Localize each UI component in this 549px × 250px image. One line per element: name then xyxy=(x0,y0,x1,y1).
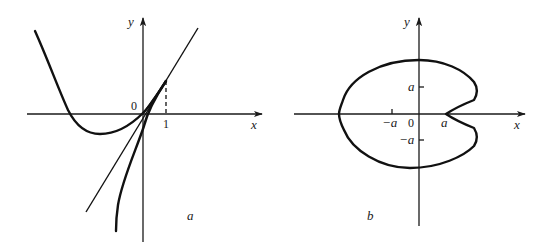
panel-b-tick-pos-a-x-label: a xyxy=(441,115,448,130)
panel-b-origin-label: 0 xyxy=(408,116,414,130)
panel-b-caption: b xyxy=(367,208,374,223)
panel-b-tick-neg-a-y-label: −a xyxy=(399,132,415,147)
figure: y x 0 1 a y x 0 −a a a −a b xyxy=(0,0,549,250)
panel-b-tick-neg-a-x-label: −a xyxy=(382,115,398,130)
panel-a-y-label: y xyxy=(126,14,134,29)
panel-a-secant-line xyxy=(143,81,166,114)
panel-a-origin-label: 0 xyxy=(131,99,137,113)
panel-b: y x 0 −a a a −a b xyxy=(294,14,525,226)
panel-a-x-label: x xyxy=(250,117,257,132)
panel-a-caption: a xyxy=(187,208,194,223)
panel-b-x-label: x xyxy=(513,117,520,132)
panel-a-inverse-curve xyxy=(116,81,166,231)
panel-b-tick-pos-a-y-label: a xyxy=(408,79,415,94)
panel-b-y-label: y xyxy=(402,14,410,29)
panel-a-tangent-line xyxy=(86,28,198,212)
panel-a: y x 0 1 a xyxy=(27,14,262,242)
panel-a-tick-1-label: 1 xyxy=(163,117,169,131)
